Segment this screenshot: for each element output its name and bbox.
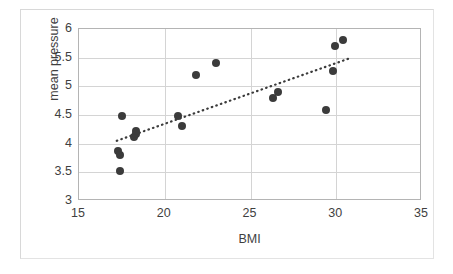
data-point	[118, 112, 126, 120]
plot-area	[78, 28, 421, 200]
data-point	[322, 106, 330, 114]
data-point	[274, 88, 282, 96]
x-tick-label: 15	[58, 207, 98, 220]
data-point	[132, 127, 140, 135]
y-tick-label: 4	[32, 136, 72, 149]
x-tick-label: 30	[315, 207, 355, 220]
x-tick-label: 20	[144, 207, 184, 220]
y-axis-title: mean pressure	[47, 0, 61, 129]
data-point	[331, 42, 339, 50]
y-tick-label: 3.5	[32, 165, 72, 178]
x-tick-label: 35	[401, 207, 441, 220]
x-axis-title: BMI	[78, 232, 421, 246]
trendline	[79, 29, 422, 201]
y-tick-label: 3	[32, 194, 72, 207]
x-tick-label: 25	[230, 207, 270, 220]
scatter-chart-figure: mean pressure 6 5.5 5 4.5 4 3.5 3 15 20 …	[0, 0, 453, 274]
data-point	[212, 59, 220, 67]
